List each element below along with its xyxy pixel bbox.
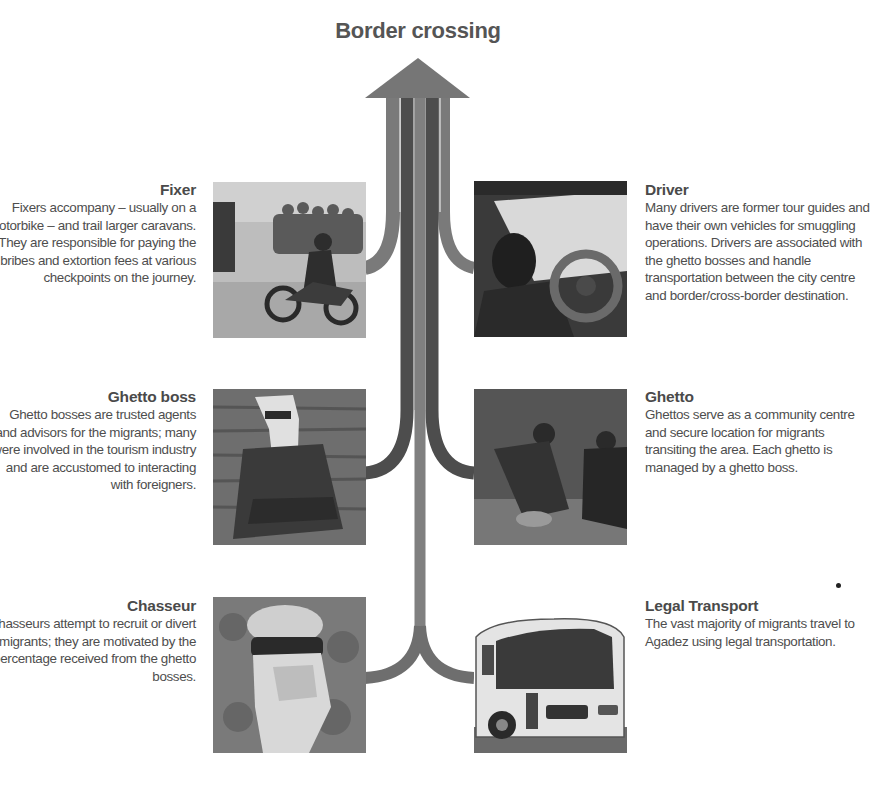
role-title: Ghetto boss [0, 387, 196, 406]
ghetto-photo [474, 389, 627, 545]
role-card-ghetto-boss: Ghetto boss Ghetto bosses are trusted ag… [0, 387, 196, 494]
role-description: Many drivers are former tour guides and … [645, 199, 870, 305]
seated-man-turban-photo-icon [213, 389, 366, 545]
role-title: Driver [645, 180, 870, 199]
scan-artifact-dot [836, 583, 841, 588]
role-title: Legal Transport [645, 596, 870, 615]
role-description: The vast majority of migrants travel to … [645, 615, 870, 650]
role-title: Fixer [0, 180, 196, 199]
role-description: Chasseurs attempt to recruit or divert m… [0, 615, 196, 685]
ghetto-boss-photo [213, 389, 366, 545]
branch-ghetto [432, 98, 474, 473]
role-card-ghetto: Ghetto Ghettos serve as a community cent… [645, 387, 870, 476]
motorbike-rider-photo-icon [213, 182, 366, 338]
branch-driver [444, 98, 474, 268]
fixer-photo [213, 182, 366, 338]
ghetto-compound-photo-icon [474, 389, 627, 545]
role-card-driver: Driver Many drivers are former tour guid… [645, 180, 870, 305]
legal-transport-photo [474, 597, 627, 753]
role-card-chasseur: Chasseur Chasseurs attempt to recruit or… [0, 596, 196, 685]
role-description: Ghetto bosses are trusted agents and adv… [0, 406, 196, 494]
branch-legal-transport [420, 626, 474, 678]
arrowhead-icon [365, 58, 470, 98]
chasseur-photo [213, 597, 366, 753]
passenger-bus-photo-icon [474, 597, 627, 753]
role-description: Ghettos serve as a community centre and … [645, 406, 870, 476]
role-description: Fixers accompany – usually on a motorbik… [0, 199, 196, 287]
role-card-fixer: Fixer Fixers accompany – usually on a mo… [0, 180, 196, 287]
driver-photo [474, 181, 627, 337]
role-title: Ghetto [645, 387, 870, 406]
face-covered-man-photo-icon [213, 597, 366, 753]
role-title: Chasseur [0, 596, 196, 615]
branch-fixer [365, 98, 393, 268]
branch-chasseur [365, 626, 420, 678]
driver-steering-wheel-photo-icon [474, 181, 627, 337]
role-card-legal-transport: Legal Transport The vast majority of mig… [645, 596, 870, 650]
